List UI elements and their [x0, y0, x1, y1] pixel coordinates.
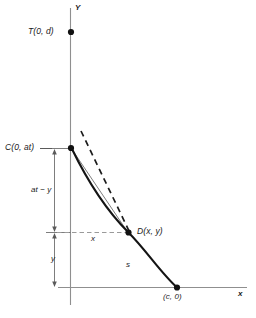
point-D	[125, 229, 131, 235]
y-axis-label: Y	[75, 4, 80, 12]
dashed-tangent-line	[81, 131, 130, 233]
chord-c-to-d	[71, 148, 129, 234]
point-label-T: T(0, d)	[28, 27, 54, 36]
point-label-D: D(x, y)	[137, 227, 163, 236]
measure-label-x: x	[91, 235, 95, 243]
measure-label-at-minus-y: at − y	[31, 186, 51, 194]
arrowhead-down-at-minus-y	[52, 227, 57, 233]
arrowhead-up-at-minus-y	[52, 149, 57, 155]
measure-label-y: y	[51, 255, 55, 263]
arc-length-label-s: s	[126, 261, 130, 269]
arrowhead-down-y	[52, 282, 57, 288]
point-label-C: C(0, at)	[5, 143, 34, 152]
point-C	[68, 145, 74, 151]
arrowhead-up-y	[52, 233, 57, 239]
x-axis-label: x	[238, 290, 243, 298]
point-E	[174, 284, 180, 290]
point-label-E: (c, 0)	[163, 293, 182, 301]
point-T	[68, 29, 74, 35]
geometry-figure: Y x T(0, d) C(0, at) D(x, y) (c, 0) at −…	[0, 0, 256, 318]
figure-canvas	[0, 0, 256, 318]
main-curve	[72, 148, 178, 288]
